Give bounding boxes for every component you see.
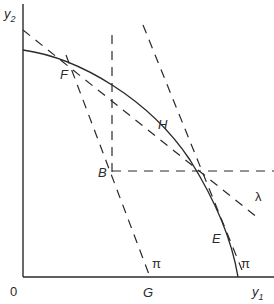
origin-label: 0 (10, 285, 17, 298)
point-f-label: F (60, 68, 68, 81)
diagram-canvas (0, 0, 274, 304)
pi-label-left: π (152, 257, 161, 270)
point-e-label: E (212, 232, 221, 245)
pi-label-right: π (241, 257, 250, 270)
production-possibility-diagram: y2 0 y1 F H B E G π π λ (0, 0, 274, 304)
point-b-label: B (98, 166, 107, 179)
y1-axis-label: y1 (252, 285, 264, 302)
point-g-label: G (143, 286, 153, 299)
pi-line-left (66, 55, 150, 277)
pi-line-right (143, 25, 242, 270)
y2-axis-label: y2 (4, 7, 16, 24)
point-h-label: H (158, 118, 167, 131)
lambda-label: λ (255, 190, 262, 203)
transformation-curve (23, 50, 238, 277)
